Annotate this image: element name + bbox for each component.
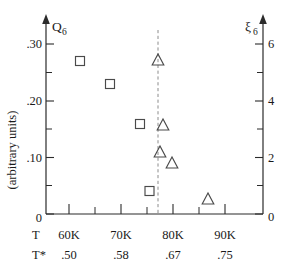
data-point-triangle — [166, 157, 178, 168]
left-tick-label-030: .30 — [26, 37, 42, 51]
left-axis-title: Q 6 — [52, 19, 67, 37]
x-tick-label-Tstar-50: .50 — [61, 248, 77, 262]
x-tick-label-Tstar-75: .75 — [217, 248, 233, 262]
scatter-plot: .30 .20 .10 0 6 4 2 0 Q 6 ξ 6 (arbitrary… — [0, 0, 287, 270]
data-point-square — [76, 57, 85, 66]
left-axis-title-base: Q — [52, 19, 62, 34]
data-point-square — [145, 187, 154, 196]
y-axis-label: (arbitrary units) — [5, 111, 19, 190]
left-tick-label-020: .20 — [26, 94, 42, 108]
data-point-square — [106, 80, 115, 89]
right-tick-label-6: 6 — [268, 37, 274, 51]
right-axis-title-subscript: 6 — [253, 27, 258, 37]
right-tick-label-0: 0 — [268, 210, 274, 224]
figure-container: .30 .20 .10 0 6 4 2 0 Q 6 ξ 6 (arbitrary… — [0, 0, 287, 270]
data-point-triangle — [202, 193, 214, 204]
right-axis-arrow-icon — [259, 14, 267, 24]
x-axis-group — [46, 204, 263, 214]
x-tick-label-T-60K: 60K — [58, 228, 80, 242]
left-tick-label-000: 0 — [36, 211, 42, 225]
data-point-square — [136, 120, 145, 129]
left-axis-title-subscript: 6 — [62, 27, 67, 37]
right-tick-label-4: 4 — [268, 94, 275, 108]
x-tick-label-T-80K: 80K — [162, 228, 184, 242]
series-triangles — [152, 54, 214, 204]
right-axis-group — [255, 14, 267, 214]
right-tick-label-2: 2 — [268, 151, 274, 165]
data-point-triangle — [157, 119, 169, 130]
right-axis-title-base: ξ — [245, 19, 251, 34]
x-axis-row-header-T: T — [32, 228, 40, 242]
left-axis-arrow-icon — [42, 14, 50, 24]
x-tick-label-Tstar-67: .67 — [165, 248, 181, 262]
x-tick-label-Tstar-58: .58 — [113, 248, 129, 262]
left-axis-group — [42, 14, 54, 214]
left-tick-label-010: .10 — [26, 151, 42, 165]
x-tick-label-T-90K: 90K — [214, 228, 236, 242]
x-axis-row-header-Tstar: T* — [32, 248, 46, 262]
data-point-triangle — [154, 146, 166, 157]
series-squares — [76, 57, 155, 196]
x-tick-label-T-70K: 70K — [110, 228, 132, 242]
right-axis-title: ξ 6 — [245, 19, 258, 37]
